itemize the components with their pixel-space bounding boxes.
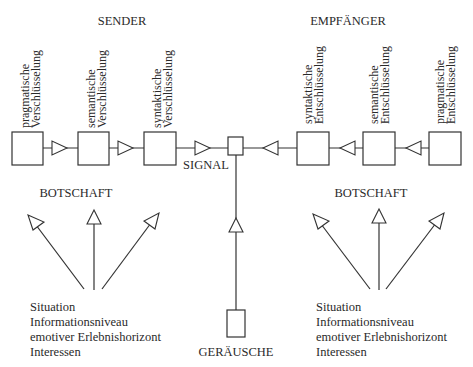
arrow-right-icon xyxy=(118,141,133,155)
sender-message-arrows xyxy=(28,210,159,290)
factor-item: emotiver Erlebnishorizont xyxy=(316,330,447,344)
signal-label: SIGNAL xyxy=(183,158,229,172)
sender-stage-box-semantic xyxy=(78,132,109,165)
sender-stage-box-pragmatic xyxy=(12,132,43,165)
arrow-line xyxy=(102,223,151,289)
noise-label: GERÄUSCHE xyxy=(198,345,273,359)
factor-item: Situation xyxy=(30,300,76,314)
svg-text:Entschlüsselung: Entschlüsselung xyxy=(378,46,392,124)
receiver-stage-box-semantic xyxy=(363,132,395,165)
svg-text:Verschlüsselung: Verschlüsselung xyxy=(95,50,109,128)
sender-heading: SENDER xyxy=(98,14,147,28)
receiver-stage-label-pragmatic: pragmatische Entschlüsselung xyxy=(433,46,458,124)
receiver-stage-box-pragmatic xyxy=(429,132,461,165)
receiver-message-label: BOTSCHAFT xyxy=(335,186,408,200)
arrow-line xyxy=(36,225,84,289)
receiver-stage-label-semantic: semantische Entschlüsselung xyxy=(367,46,392,124)
communication-model-diagram: SENDER EMPFÄNGER SIGNAL pragmatische Ver… xyxy=(0,0,473,367)
arrow-line xyxy=(386,223,436,289)
arrow-head-icon xyxy=(28,215,44,230)
arrow-left-icon xyxy=(340,141,355,155)
arrow-right-icon xyxy=(195,141,210,155)
sender-stage-label-syntactic: syntaktische Verschlüsselung xyxy=(150,50,175,128)
svg-text:Verschlüsselung: Verschlüsselung xyxy=(29,50,43,128)
arrow-head-icon xyxy=(144,213,159,229)
sender-factor-list: Situation Informationsniveau emotiver Er… xyxy=(30,300,161,359)
factor-item: Informationsniveau xyxy=(30,315,129,329)
svg-text:Entschlüsselung: Entschlüsselung xyxy=(444,46,458,124)
arrow-head-icon xyxy=(429,213,444,229)
svg-text:Verschlüsselung: Verschlüsselung xyxy=(161,50,175,128)
sender-stage-label-pragmatic: pragmatische Verschlüsselung xyxy=(18,50,43,128)
factor-item: Informationsniveau xyxy=(316,315,415,329)
factor-item: Interessen xyxy=(316,345,367,359)
receiver-stage-box-syntactic xyxy=(297,132,329,165)
arrow-head-icon xyxy=(87,210,101,224)
factor-item: emotiver Erlebnishorizont xyxy=(30,330,161,344)
arrow-line xyxy=(321,224,370,289)
receiver-heading: EMPFÄNGER xyxy=(310,14,386,28)
svg-text:Entschlüsselung: Entschlüsselung xyxy=(312,46,326,124)
arrow-head-icon xyxy=(372,209,386,223)
sender-stage-box-syntactic xyxy=(144,132,176,165)
arrow-right-icon xyxy=(52,141,67,155)
signal-box xyxy=(228,137,243,155)
arrow-left-icon xyxy=(406,141,421,155)
receiver-stage-label-syntactic: syntaktische Entschlüsselung xyxy=(301,46,326,124)
arrow-head-icon xyxy=(313,214,329,229)
factor-item: Interessen xyxy=(30,345,81,359)
sender-stage-label-semantic: semantische Verschlüsselung xyxy=(84,50,109,128)
noise-box xyxy=(227,310,245,337)
arrow-left-icon xyxy=(263,141,278,155)
receiver-factor-list: Situation Informationsniveau emotiver Er… xyxy=(316,300,447,359)
receiver-message-arrows xyxy=(313,209,444,290)
arrow-up-icon xyxy=(229,218,243,232)
factor-item: Situation xyxy=(316,300,362,314)
sender-message-label: BOTSCHAFT xyxy=(40,186,113,200)
